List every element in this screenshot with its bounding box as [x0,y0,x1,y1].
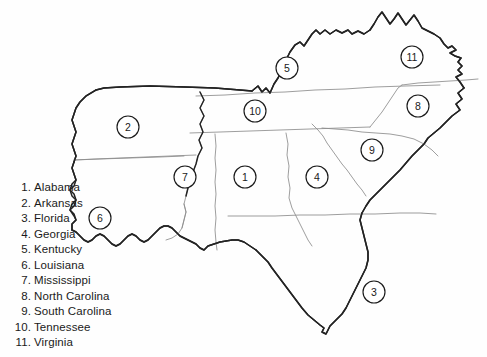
map-legend: 1.Alabama 2.Arkansas 3.Florida 4.Georgia… [14,180,134,351]
border-tennessee-northcarolina [370,85,402,127]
state-marker-1[interactable]: 1 [234,166,256,188]
border-alabama-georgia [286,133,312,246]
legend-label-7: Mississippi [34,274,91,286]
arkansas-north-outline [96,86,252,91]
legend-number-2: 2. [14,196,31,212]
state-marker-7[interactable]: 7 [174,166,196,188]
arkansas-west-outline [72,90,96,162]
legend-number-9: 9. [14,304,31,320]
legend-label-6: Louisiana [34,259,84,271]
border-louisiana-arkansas [74,156,184,160]
legend-number-7: 7. [14,273,31,289]
legend-number-11: 11. [14,335,31,351]
marker-label-1: 1 [242,171,248,183]
marker-label-8: 8 [415,100,421,112]
legend-item-5: 5.Kentucky [14,242,134,258]
legend-label-2: Arkansas [34,197,83,209]
marker-label-10: 10 [249,105,261,117]
border-louisiana-mississippi [166,204,186,240]
legend-label-4: Georgia [34,228,76,240]
state-markers-group: 1 2 3 4 5 6 7 [89,46,429,303]
state-marker-11[interactable]: 11 [401,46,423,68]
marker-label-2: 2 [125,121,131,133]
state-marker-3[interactable]: 3 [363,281,385,303]
marker-label-9: 9 [369,144,375,156]
marker-label-4: 4 [314,171,320,183]
legend-number-4: 4. [14,227,31,243]
legend-label-8: North Carolina [34,290,110,302]
legend-label-1: Alabama [34,181,80,193]
legend-number-3: 3. [14,211,31,227]
marker-label-5: 5 [284,62,290,74]
legend-number-6: 6. [14,258,31,274]
legend-number-10: 10. [14,320,31,336]
legend-number-1: 1. [14,180,31,196]
state-marker-5[interactable]: 5 [276,57,298,79]
legend-item-6: 6.Louisiana [14,258,134,274]
marker-label-11: 11 [407,51,418,63]
border-northcarolina-virginia [402,79,478,85]
border-georgia-florida [228,213,436,216]
state-marker-8[interactable]: 8 [407,95,429,117]
legend-item-7: 7.Mississippi [14,273,134,289]
legend-number-8: 8. [14,289,31,305]
legend-number-5: 5. [14,242,31,258]
legend-item-8: 8.North Carolina [14,289,134,305]
state-marker-10[interactable]: 10 [244,100,266,122]
kentucky-north-outline [252,30,370,93]
border-mississippi-alabama [215,134,217,250]
legend-item-10: 10.Tennessee [14,320,134,336]
legend-label-5: Kentucky [34,243,82,255]
map-figure: 1 2 3 4 5 6 7 [0,0,487,357]
legend-item-11: 11.Virginia [14,335,134,351]
marker-label-7: 7 [182,171,188,183]
legend-label-3: Florida [34,212,70,224]
legend-item-9: 9.South Carolina [14,304,134,320]
legend-item-1: 1.Alabama [14,180,134,196]
legend-label-11: Virginia [34,336,73,348]
legend-label-10: Tennessee [34,321,91,333]
legend-item-2: 2.Arkansas [14,196,134,212]
border-tennessee-north [196,85,440,96]
state-marker-9[interactable]: 9 [361,139,383,161]
legend-label-9: South Carolina [34,305,111,317]
state-marker-4[interactable]: 4 [306,166,328,188]
marker-label-3: 3 [371,286,377,298]
legend-item-4: 4.Georgia [14,227,134,243]
florida-peninsula-outline [256,213,368,334]
state-marker-2[interactable]: 2 [117,116,139,138]
legend-item-3: 3.Florida [14,211,134,227]
